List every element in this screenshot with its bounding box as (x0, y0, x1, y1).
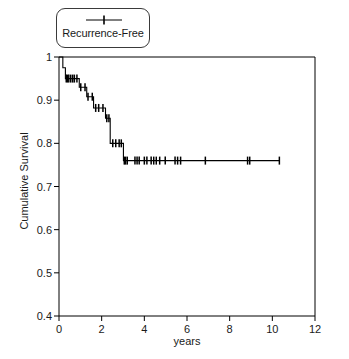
x-tick-label: 0 (56, 323, 62, 335)
y-tick-label: 0.7 (17, 181, 52, 193)
y-tick-label: 0.8 (17, 137, 52, 149)
survival-curve-group (59, 57, 279, 165)
y-axis-ticks (54, 57, 59, 316)
x-tick-label: 12 (309, 323, 321, 335)
x-tick-label: 2 (99, 323, 105, 335)
censor-tick-marks (66, 75, 279, 165)
x-tick-label: 10 (266, 323, 278, 335)
x-axis-ticks (59, 316, 315, 321)
survival-step-line (59, 57, 279, 161)
y-tick-label: 0.4 (17, 310, 52, 322)
x-tick-label: 8 (227, 323, 233, 335)
survival-chart-figure: Recurrence-Free Cumulative Survival year… (0, 0, 349, 359)
y-tick-label: 1 (17, 51, 52, 63)
x-tick-label: 4 (141, 323, 147, 335)
y-tick-label: 0.6 (17, 224, 52, 236)
y-tick-label: 0.9 (17, 94, 52, 106)
plot-canvas (0, 0, 349, 359)
y-tick-label: 0.5 (17, 267, 52, 279)
axis-frame (59, 57, 315, 316)
x-tick-label: 6 (184, 323, 190, 335)
